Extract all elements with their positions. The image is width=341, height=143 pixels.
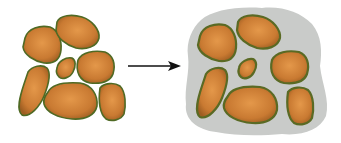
particle xyxy=(44,83,97,119)
particle xyxy=(224,87,277,123)
particle xyxy=(271,51,308,83)
particle xyxy=(19,66,49,116)
particle xyxy=(287,88,313,125)
diagram-svg xyxy=(0,0,341,143)
particle xyxy=(77,51,114,83)
left-particle-group xyxy=(19,15,125,120)
particle xyxy=(99,84,125,121)
particle xyxy=(56,58,75,79)
right-particle-group xyxy=(186,8,328,136)
particle xyxy=(56,15,99,48)
particle xyxy=(23,26,61,63)
diagram-canvas xyxy=(0,0,341,143)
arrow-icon xyxy=(128,61,181,71)
